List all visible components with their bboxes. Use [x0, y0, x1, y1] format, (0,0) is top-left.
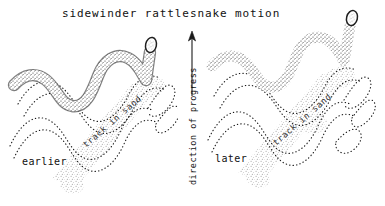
- panel-later: later track in sand: [208, 9, 375, 188]
- figure-title: sidewinder rattlesnake motion: [62, 7, 280, 20]
- panel-earlier: earlier track in sand: [10, 36, 179, 194]
- axis-label-direction: direction of progress: [188, 67, 198, 185]
- sidewinder-figure: sidewinder rattlesnake motion: [0, 0, 385, 206]
- panel-label-later: later: [215, 153, 247, 164]
- sand-drag-band-left: [52, 76, 165, 194]
- panel-label-earlier: earlier: [22, 156, 67, 167]
- direction-of-progress-axis: direction of progress: [188, 31, 198, 185]
